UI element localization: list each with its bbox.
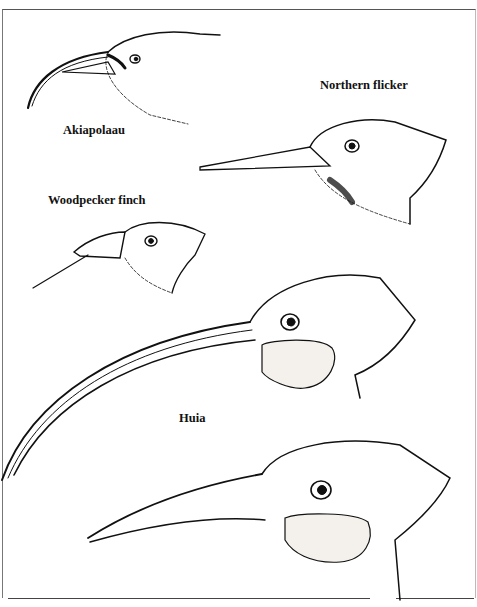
label-akiapolaau: Akiapolaau bbox=[63, 123, 125, 138]
label-huia: Huia bbox=[179, 411, 205, 426]
woodpecker-finch-head bbox=[33, 223, 205, 294]
label-woodpecker-finch: Woodpecker finch bbox=[48, 193, 145, 208]
akiapolaau-head bbox=[28, 32, 220, 124]
label-northern-flicker: Northern flicker bbox=[320, 78, 408, 93]
huia-male-head bbox=[88, 441, 450, 600]
huia-female-head bbox=[2, 275, 415, 480]
northern-flicker-head bbox=[200, 120, 446, 224]
